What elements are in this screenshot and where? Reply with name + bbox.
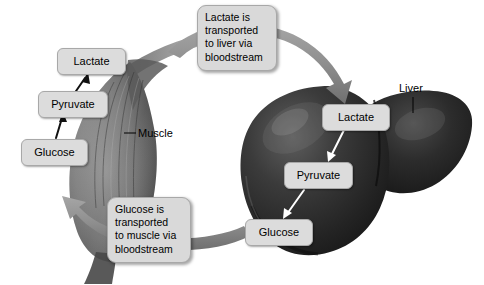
glucose-callout-line-2: transported [115, 216, 184, 229]
lactate-callout-line-2: transported [205, 24, 270, 37]
lactate-callout-line-1: Lactate is [205, 11, 270, 24]
muscle-organ-label: Muscle [138, 127, 173, 139]
glucose-callout-line-3: to muscle via [115, 229, 184, 242]
liver-step-glucose-label: Glucose [259, 227, 299, 238]
muscle-step-pyruvate-label: Pyruvate [51, 99, 94, 110]
muscle-step-pyruvate[interactable]: Pyruvate [38, 91, 108, 118]
muscle-step-glucose-label: Glucose [34, 147, 74, 158]
glucose-callout-line-1: Glucose is [115, 203, 184, 216]
liver-step-lactate-label: Lactate [338, 112, 374, 123]
liver-step-pyruvate-label: Pyruvate [297, 170, 340, 181]
liver-step-glucose[interactable]: Glucose [245, 219, 313, 246]
muscle-step-lactate[interactable]: Lactate [57, 48, 126, 75]
liver-organ-label: Liver [399, 82, 423, 94]
glucose-callout-line-4: bloodstream [115, 243, 184, 256]
glucose-transport-callout[interactable]: Glucose is transported to muscle via blo… [107, 197, 191, 263]
lactate-transport-callout[interactable]: Lactate is transported to liver via bloo… [197, 5, 277, 71]
cori-cycle-diagram: Lactate Pyruvate Glucose Lactate Pyruvat… [0, 0, 484, 285]
muscle-step-glucose[interactable]: Glucose [21, 139, 88, 166]
muscle-step-lactate-label: Lactate [73, 56, 109, 67]
lactate-callout-line-4: bloodstream [205, 51, 270, 64]
liver-step-pyruvate[interactable]: Pyruvate [284, 162, 353, 189]
liver-step-lactate[interactable]: Lactate [322, 104, 390, 131]
lactate-callout-line-3: to liver via [205, 37, 270, 50]
